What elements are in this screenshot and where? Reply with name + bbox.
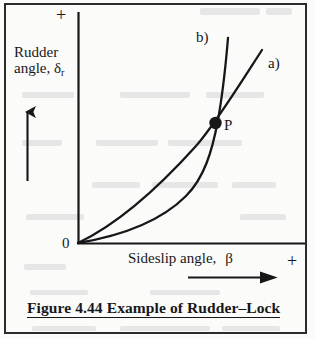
figure-rudder-lock: + Rudder angle, δr 0 Sideslip angle,β + …: [0, 0, 315, 339]
y-axis-symbol-subscript: r: [61, 67, 64, 78]
origin-label: 0: [62, 236, 70, 252]
curve-b-path: [78, 38, 228, 243]
y-axis-label-line2: angle, δr: [14, 61, 64, 78]
x-axis-positive-sign: +: [287, 252, 297, 271]
y-axis-label-line1: Rudder: [14, 45, 64, 61]
intersection-point-p: [209, 117, 221, 129]
x-axis-label: Sideslip angle,β: [128, 251, 233, 267]
figure-caption: Figure 4.44 Example of Rudder–Lock: [27, 300, 280, 318]
curve-b-label: b): [196, 30, 209, 46]
y-axis-positive-sign: +: [56, 6, 66, 25]
curve-a-path: [78, 50, 262, 243]
x-axis-label-text: Sideslip angle,: [128, 250, 216, 266]
x-axis-symbol: β: [225, 250, 233, 266]
y-axis-symbol: δ: [54, 60, 61, 76]
curve-a-label: a): [268, 56, 280, 72]
point-p-label: P: [224, 118, 232, 134]
y-axis-label-text: angle,: [14, 60, 50, 76]
y-axis-label: Rudder angle, δr: [14, 45, 64, 78]
